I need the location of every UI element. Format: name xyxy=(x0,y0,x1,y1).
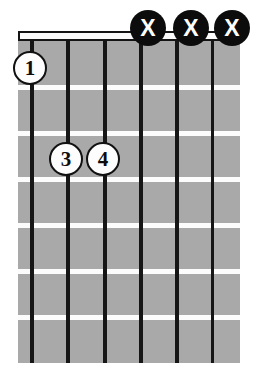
string-5 xyxy=(175,40,179,363)
finger-marker-1[interactable]: 1 xyxy=(13,51,47,85)
fret-line-3 xyxy=(18,177,240,182)
string-4 xyxy=(139,40,143,363)
string-3 xyxy=(103,40,107,363)
finger-marker-4[interactable]: 4 xyxy=(86,142,120,176)
chord-diagram: 1 3 4 X X X xyxy=(0,0,258,385)
mute-marker-string-4[interactable]: X xyxy=(130,10,166,46)
fret-line-2 xyxy=(18,131,240,136)
string-1 xyxy=(30,40,34,363)
finger-marker-3[interactable]: 3 xyxy=(49,142,83,176)
fret-line-4 xyxy=(18,223,240,228)
fret-line-5 xyxy=(18,269,240,274)
fret-line-6 xyxy=(18,315,240,320)
mute-marker-string-5[interactable]: X xyxy=(173,10,209,46)
mute-marker-string-6[interactable]: X xyxy=(214,10,250,46)
fret-line-1 xyxy=(18,85,240,90)
string-2 xyxy=(66,40,70,363)
string-6 xyxy=(211,40,214,363)
